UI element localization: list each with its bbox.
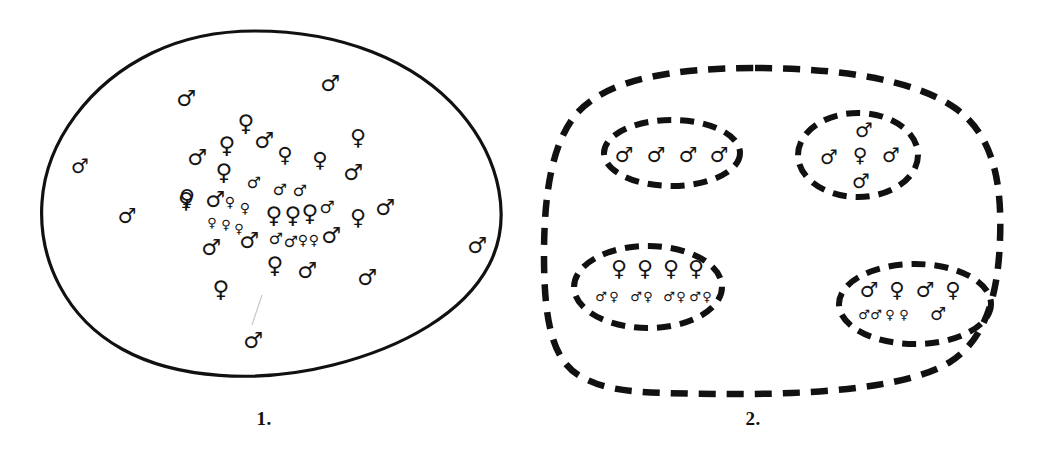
male-symbol: ♂ (679, 143, 698, 167)
male-symbol: ♂ (269, 229, 283, 248)
female-symbol: ♀ (889, 278, 904, 302)
male-symbol: ♂ (254, 128, 274, 153)
male-symbol: ♂ (375, 195, 395, 220)
female-symbol: ♀ (240, 200, 250, 216)
male-symbol: ♂ (647, 143, 666, 167)
male-symbol: ♂ (239, 228, 259, 253)
female-symbol: ♀ (676, 289, 686, 304)
population-structure-figure: ♂ ♂ ♂ ♀ ♂ ♀ ♀ ♂ ♀ ♀ ♀ ♂ ♂ ♀ ♂ ♂ ♂ ♀ ♂ ♀ (0, 0, 1055, 456)
male-symbol: ♂ (630, 289, 642, 304)
male-symbol: ♂ (820, 145, 838, 169)
female-symbol: ♀ (285, 202, 302, 228)
female-symbol: ♀ (216, 159, 233, 185)
female-symbol: ♀ (298, 232, 308, 248)
male-symbol: ♂ (882, 143, 900, 167)
male-symbol: ♂ (916, 278, 935, 302)
male-symbol: ♂ (689, 289, 701, 304)
canvas-background (0, 0, 1055, 456)
female-symbol: ♀ (277, 143, 292, 167)
male-symbol: ♂ (343, 160, 363, 185)
female-symbol: ♀ (309, 232, 319, 248)
male-symbol: ♂ (852, 169, 870, 193)
female-symbol: ♀ (266, 202, 283, 228)
female-symbol: ♀ (643, 289, 653, 304)
female-symbol: ♀ (702, 289, 712, 304)
female-symbol: ♀ (219, 132, 236, 158)
female-symbol: ♀ (302, 200, 319, 226)
female-symbol: ♀ (663, 256, 679, 281)
male-symbol: ♂ (273, 180, 287, 199)
female-symbol: ♀ (609, 289, 619, 304)
female-symbol: ♀ (688, 256, 704, 281)
female-symbol: ♀ (238, 110, 255, 136)
panel-2-caption: 2. (745, 408, 760, 429)
female-symbol: ♀ (611, 256, 627, 281)
panel-1-caption: 1. (256, 408, 271, 429)
male-symbol: ♂ (357, 265, 377, 290)
female-symbol: ♀ (178, 188, 194, 213)
male-symbol: ♂ (930, 303, 946, 324)
female-symbol: ♀ (899, 307, 909, 322)
male-symbol: ♂ (467, 233, 487, 258)
male-symbol: ♂ (247, 173, 261, 192)
male-symbol: ♂ (321, 223, 341, 248)
male-symbol: ♂ (201, 235, 221, 260)
male-symbol: ♂ (118, 204, 137, 228)
male-symbol: ♂ (297, 258, 317, 283)
female-symbol: ♀ (637, 256, 653, 281)
male-symbol: ♂ (615, 143, 634, 167)
male-symbol: ♂ (870, 307, 882, 322)
male-symbol: ♂ (710, 143, 729, 167)
male-symbol: ♂ (205, 187, 225, 212)
female-symbol: ♀ (853, 143, 868, 167)
male-symbol: ♂ (320, 71, 340, 96)
female-symbol: ♀ (225, 194, 235, 210)
female-symbol: ♀ (312, 148, 327, 172)
female-symbol: ♀ (207, 215, 217, 230)
female-symbol: ♀ (945, 278, 960, 302)
male-symbol: ♂ (71, 154, 89, 178)
female-symbol: ♀ (350, 125, 366, 150)
male-symbol: ♂ (858, 307, 870, 322)
female-symbol: ♀ (267, 252, 284, 278)
male-symbol: ♂ (595, 289, 607, 304)
female-symbol: ♀ (213, 276, 230, 302)
male-symbol: ♂ (855, 118, 873, 142)
male-symbol: ♂ (663, 289, 675, 304)
male-symbol: ♂ (284, 232, 298, 251)
female-symbol: ♀ (221, 217, 231, 232)
figure-root: ♂ ♂ ♂ ♀ ♂ ♀ ♀ ♂ ♀ ♀ ♀ ♂ ♂ ♀ ♂ ♂ ♂ ♀ ♂ ♀ (0, 0, 1055, 456)
male-symbol: ♂ (243, 328, 263, 353)
female-symbol: ♀ (885, 307, 895, 322)
female-symbol: ♀ (350, 205, 366, 230)
male-symbol: ♂ (319, 197, 334, 217)
male-symbol: ♂ (176, 86, 196, 111)
male-symbol: ♂ (860, 278, 879, 302)
male-symbol: ♂ (293, 181, 307, 200)
male-symbol: ♂ (187, 145, 207, 170)
